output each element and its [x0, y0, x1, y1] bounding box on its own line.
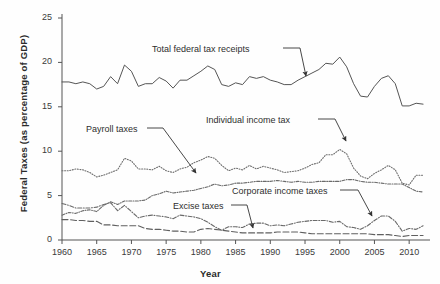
- y-tick-label: 25: [16, 12, 52, 22]
- annotation-label-payroll-taxes: Payroll taxes: [86, 124, 138, 134]
- x-tick-label: 1960: [44, 247, 80, 257]
- series-line-corporate-income-taxes: [62, 203, 423, 231]
- y-tick-label: 10: [16, 145, 52, 155]
- x-tick-label: 1995: [287, 247, 323, 257]
- annotation-leader-individual-income-tax: [318, 119, 346, 141]
- x-tick-label: 2000: [322, 247, 358, 257]
- x-tick-label: 1975: [148, 247, 184, 257]
- x-tick-label: 1970: [113, 247, 149, 257]
- line-chart-plot: [0, 0, 440, 284]
- x-tick-label: 2010: [391, 247, 427, 257]
- y-tick-label: 0: [16, 234, 52, 244]
- x-tick-label: 2005: [356, 247, 392, 257]
- annotation-leader-corporate-income-taxes: [340, 190, 372, 216]
- annotation-label-total-federal-tax-receipts: Total federal tax receipts: [152, 44, 250, 54]
- series-line-total-federal-tax-receipts: [62, 57, 423, 106]
- annotation-leader-excise-taxes: [231, 205, 253, 228]
- x-tick-label: 1980: [183, 247, 219, 257]
- y-tick-label: 15: [16, 101, 52, 111]
- x-axis-title: Year: [200, 268, 221, 279]
- annotation-leader-total-federal-tax-receipts: [283, 48, 306, 76]
- annotation-label-corporate-income-taxes: Corporate income taxes: [232, 186, 328, 196]
- series-line-individual-income-tax: [62, 149, 423, 185]
- x-tick-label: 1965: [79, 247, 115, 257]
- annotation-label-excise-taxes: Excise taxes: [173, 201, 224, 211]
- x-tick-label: 1985: [218, 247, 254, 257]
- x-tick-label: 1990: [252, 247, 288, 257]
- annotation-label-individual-income-tax: Individual income tax: [206, 115, 290, 125]
- chart-container: Federal Taxes (as percentage of GDP) Yea…: [0, 0, 440, 284]
- y-tick-label: 20: [16, 56, 52, 66]
- y-tick-label: 5: [16, 190, 52, 200]
